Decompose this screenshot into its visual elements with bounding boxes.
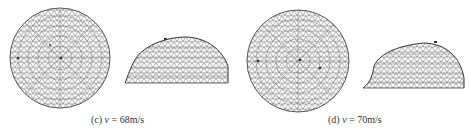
velocity-value: 68m/s xyxy=(120,114,144,125)
panel-label: (d) xyxy=(328,114,340,125)
panel-c-mesh-graphic xyxy=(0,0,234,131)
top-view-mesh xyxy=(8,6,112,110)
side-view-mesh xyxy=(363,41,465,89)
panel-c-caption: (c) v = 68m/s xyxy=(91,114,144,125)
panel-d: (d) v = 70m/s xyxy=(234,0,469,131)
side-view-mesh xyxy=(125,36,230,84)
velocity-value: 70m/s xyxy=(357,114,381,125)
panel-label: (c) xyxy=(91,114,102,125)
panel-d-mesh-graphic xyxy=(234,0,469,131)
top-view-mesh xyxy=(246,9,350,113)
equals-sign: = xyxy=(347,114,358,125)
equals-sign: = xyxy=(109,114,120,125)
panel-d-caption: (d) v = 70m/s xyxy=(328,114,382,125)
panel-c: (c) v = 68m/s xyxy=(0,0,234,131)
